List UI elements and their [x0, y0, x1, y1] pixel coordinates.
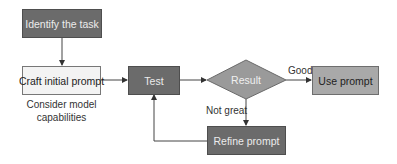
craft-note-line2: capabilities — [22, 111, 101, 124]
test-node: Test — [128, 66, 180, 95]
good-edge-label: Good — [288, 65, 312, 76]
test-label: Test — [144, 75, 163, 87]
not-great-edge-label: Not great — [206, 105, 247, 116]
identify-task-label: Identify the task — [25, 18, 99, 30]
craft-initial-prompt-node: Craft initial prompt — [22, 66, 101, 95]
craft-note: Consider model capabilities — [22, 98, 101, 124]
use-prompt-node: Use prompt — [312, 66, 379, 95]
result-label: Result — [231, 74, 261, 86]
craft-note-line1: Consider model — [22, 98, 101, 111]
use-prompt-label: Use prompt — [318, 75, 372, 87]
refine-prompt-label: Refine prompt — [214, 135, 280, 147]
craft-initial-prompt-label: Craft initial prompt — [19, 75, 104, 87]
refine-prompt-node: Refine prompt — [207, 126, 286, 155]
identify-task-node: Identify the task — [22, 9, 102, 38]
